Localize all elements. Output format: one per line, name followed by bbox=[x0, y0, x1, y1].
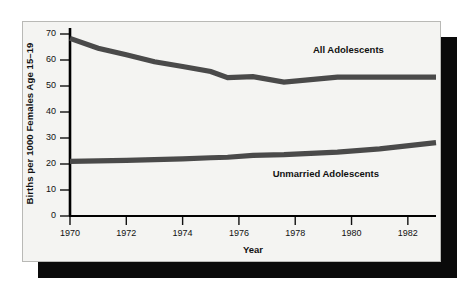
y-tick-label: 60 bbox=[30, 54, 56, 64]
series-line-2 bbox=[70, 143, 436, 162]
x-tick-label: 1982 bbox=[388, 228, 428, 238]
x-tick-label: 1972 bbox=[106, 228, 146, 238]
y-tick-label: 10 bbox=[30, 184, 56, 194]
x-axis-title: Year bbox=[70, 244, 436, 255]
x-tick-label: 1978 bbox=[275, 228, 315, 238]
x-tick-label: 1974 bbox=[163, 228, 203, 238]
data-series-group bbox=[70, 38, 436, 161]
y-tick-label: 40 bbox=[30, 106, 56, 116]
tick-marks-group bbox=[60, 34, 408, 225]
chart-figure: Births per 1000 Females Age 15–19 Year 0… bbox=[0, 0, 465, 285]
y-tick-label: 50 bbox=[30, 80, 56, 90]
series-annotation-1: All Adolescents bbox=[268, 44, 428, 55]
x-tick-label: 1976 bbox=[219, 228, 259, 238]
x-tick-label: 1980 bbox=[332, 228, 372, 238]
y-tick-label: 0 bbox=[30, 210, 56, 220]
y-tick-label: 30 bbox=[30, 132, 56, 142]
y-tick-label: 20 bbox=[30, 158, 56, 168]
y-tick-label: 70 bbox=[30, 28, 56, 38]
x-tick-label: 1970 bbox=[50, 228, 90, 238]
series-annotation-2: Unmarried Adolescents bbox=[246, 168, 406, 179]
